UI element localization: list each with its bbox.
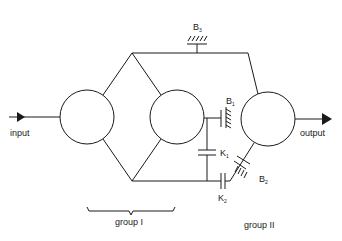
brake-b3	[187, 36, 207, 53]
lower-connection	[103, 139, 221, 181]
ground-hatch-icon	[226, 109, 231, 128]
upper-connection	[103, 53, 258, 95]
clutch-k1	[198, 118, 216, 181]
b3-label: B3	[193, 22, 202, 33]
b1-label: B1	[226, 96, 235, 107]
output-shaft	[295, 113, 332, 125]
group-1-brace	[87, 207, 175, 215]
gearset-3	[241, 92, 295, 146]
group-2-label: group II	[244, 220, 275, 230]
ground-hatch-icon	[188, 36, 207, 41]
transmission-diagram: input B3	[0, 0, 342, 241]
k1-label: K1	[220, 148, 229, 159]
gearset-2	[150, 90, 204, 144]
k2-label: K2	[218, 193, 227, 204]
ground-hatch-icon	[235, 166, 247, 178]
brake-b2	[234, 156, 250, 178]
brake-b1	[204, 107, 231, 128]
input-arrow-icon	[17, 112, 25, 122]
output-label: output	[300, 128, 326, 138]
input-label: input	[10, 128, 30, 138]
output-arrow-icon	[322, 113, 332, 125]
b2-label: B2	[259, 174, 268, 185]
input-shaft	[9, 112, 60, 122]
gearset-1	[60, 90, 114, 144]
group-1-label: group I	[115, 217, 143, 227]
